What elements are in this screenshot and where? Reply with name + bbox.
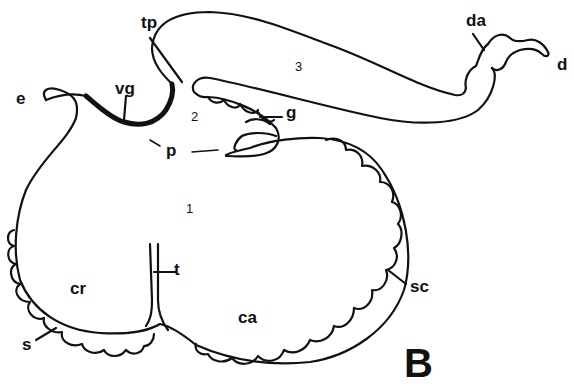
sc-pointer [388, 270, 406, 284]
label-vg: vg [115, 80, 135, 97]
neck-to-e [46, 94, 86, 100]
label-p: p [166, 142, 176, 159]
anatomical-diagram [0, 0, 574, 384]
label-tp: tp [141, 14, 157, 31]
duct-d [488, 35, 549, 70]
region-number-1: 1 [186, 202, 193, 215]
region-number-3: 3 [295, 60, 302, 73]
label-t: t [174, 261, 180, 278]
t-septum [146, 244, 168, 330]
label-e: e [16, 90, 25, 107]
label-da: da [466, 12, 486, 29]
da-lower [193, 68, 495, 123]
p-pointer-right [192, 150, 218, 152]
label-sc: sc [410, 278, 429, 295]
region-number-2: 2 [191, 110, 198, 123]
label-d: d [557, 56, 567, 73]
sc-scallops [196, 139, 402, 364]
g-fold [208, 97, 279, 157]
panel-letter: B [404, 343, 433, 383]
da-pointer [473, 34, 484, 50]
label-s: s [22, 336, 31, 353]
vg-pointer [124, 96, 126, 120]
tp-channel [152, 12, 488, 95]
label-g: g [286, 104, 296, 121]
s-pointer [36, 328, 56, 340]
label-cr: cr [70, 280, 86, 297]
label-ca: ca [238, 309, 257, 326]
p-pointer-left [150, 140, 160, 146]
